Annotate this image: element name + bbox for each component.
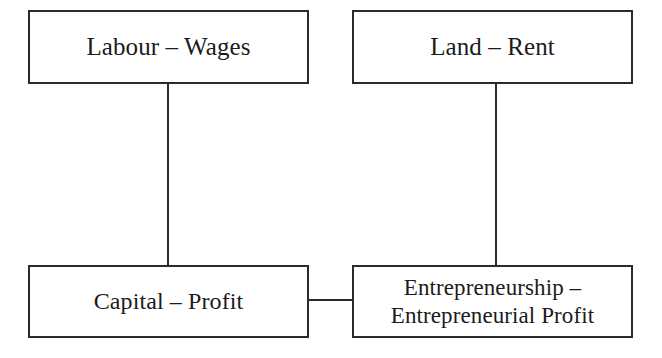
node-entrepreneurship: Entrepreneurship – Entrepreneurial Profi… — [352, 265, 633, 338]
node-capital-profit: Capital – Profit — [28, 265, 309, 338]
node-label-capital-profit: Capital – Profit — [94, 287, 244, 315]
node-land-rent: Land – Rent — [352, 10, 633, 84]
connector-capital-to-entrepreneurship — [307, 299, 354, 301]
diagram-canvas: Labour – Wages Land – Rent Capital – Pro… — [0, 0, 662, 358]
connector-land-to-entrepreneurship — [495, 82, 497, 267]
node-label-entrepreneurship: Entrepreneurship – Entrepreneurial Profi… — [391, 274, 594, 328]
connector-labour-to-capital — [167, 82, 169, 267]
node-labour-wages: Labour – Wages — [28, 10, 309, 84]
node-label-labour-wages: Labour – Wages — [86, 32, 250, 62]
node-label-land-rent: Land – Rent — [430, 32, 555, 62]
